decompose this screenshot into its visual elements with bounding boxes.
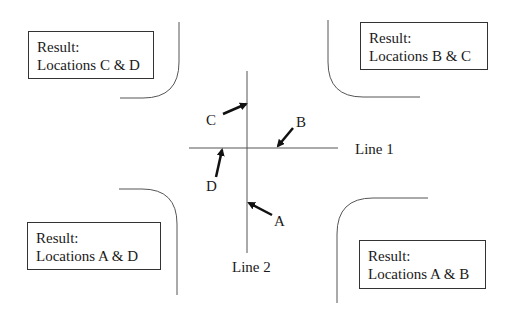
line-2-label: Line 2 bbox=[232, 260, 271, 275]
location-label-a: A bbox=[274, 214, 285, 229]
result-box-top-left: Result: Locations C & D bbox=[28, 31, 154, 79]
result-title: Result: bbox=[368, 247, 485, 265]
result-box-top-right: Result: Locations B & C bbox=[360, 22, 488, 70]
result-title: Result: bbox=[36, 229, 160, 247]
arrow-a-icon bbox=[249, 203, 272, 215]
result-text: Locations C & D bbox=[37, 56, 153, 74]
result-box-bottom-right: Result: Locations A & B bbox=[359, 240, 486, 289]
arrow-b-icon bbox=[278, 128, 293, 146]
location-label-b: B bbox=[296, 115, 306, 130]
location-label-d: D bbox=[206, 179, 217, 194]
result-text: Locations A & D bbox=[36, 247, 160, 265]
result-text: Locations A & B bbox=[368, 265, 485, 283]
result-box-bottom-left: Result: Locations A & D bbox=[27, 222, 161, 270]
arrow-d-icon bbox=[216, 150, 222, 177]
location-label-c: C bbox=[206, 113, 216, 128]
result-title: Result: bbox=[369, 29, 487, 47]
result-text: Locations B & C bbox=[369, 47, 487, 65]
line-1-label: Line 1 bbox=[355, 142, 394, 157]
result-title: Result: bbox=[37, 38, 153, 56]
arrow-c-icon bbox=[223, 104, 246, 114]
